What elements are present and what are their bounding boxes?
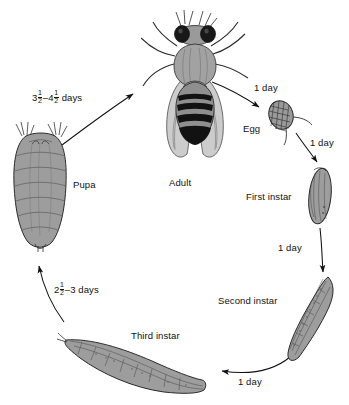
pupa-illustration xyxy=(8,118,72,258)
stage-label-pupa: Pupa xyxy=(73,180,96,190)
transition-label-egg-to-first: 1 day xyxy=(310,138,334,148)
fraction-one-half-a: 12 xyxy=(60,282,65,296)
arrow-first-to-second xyxy=(320,228,323,272)
transition-label-first-to-second: 1 day xyxy=(278,243,302,253)
arrow-second-to-third xyxy=(222,357,290,373)
stage-label-first-instar: First instar xyxy=(246,192,292,202)
duration-whole-3: 3 xyxy=(32,92,37,103)
transition-label-pupa-to-adult: 312–412 days xyxy=(32,90,82,104)
transition-label-third-to-pupa: 212–3 days xyxy=(54,282,99,296)
life-cycle-diagram: Adult Egg First instar Second instar Thi… xyxy=(0,0,349,405)
stage-label-third-instar: Third instar xyxy=(131,331,180,341)
duration-whole-2: 2 xyxy=(54,284,59,295)
duration-tail-b: days xyxy=(59,92,82,103)
adult-fly-illustration xyxy=(141,4,249,169)
stage-label-egg: Egg xyxy=(243,124,260,134)
fraction-one-half-b: 12 xyxy=(38,90,43,104)
first-instar-illustration xyxy=(303,165,337,227)
fraction-one-half-c: 12 xyxy=(54,90,59,104)
duration-mid: –4 xyxy=(43,92,54,103)
transition-label-adult-to-egg: 1 day xyxy=(254,83,278,93)
second-instar-illustration xyxy=(281,273,343,365)
egg-illustration xyxy=(262,98,314,146)
stage-label-adult: Adult xyxy=(169,178,191,188)
stage-label-second-instar: Second instar xyxy=(218,296,277,306)
duration-tail-a: –3 days xyxy=(65,284,99,295)
transition-label-second-to-third: 1 day xyxy=(238,377,262,387)
